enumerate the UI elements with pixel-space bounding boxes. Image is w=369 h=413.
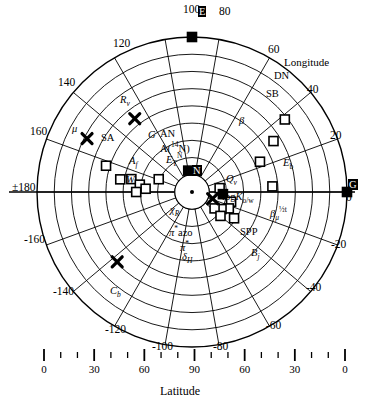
angle-label-m40: -40 [306,282,321,294]
point-label-Bj: Bj [251,248,260,261]
angle-label-m60: -60 [266,320,281,332]
bottom-axis-tick-6: 0 [338,364,352,375]
point-label-E: E [198,7,206,18]
point-label-mu: μ [72,124,77,135]
point-label-W: W [126,175,135,186]
marker-δH [216,211,225,220]
marker-DN [280,115,289,124]
point-label-Eb: Eb [283,158,293,171]
bottom-axis-tick-5: 30 [288,364,302,375]
angle-label-120: 120 [113,38,130,50]
angle-label-m120: -120 [105,324,126,336]
point-label-DN: DN [274,71,289,82]
latitude-axis-title: Latitude [160,385,200,397]
marker-SA [102,161,111,170]
point-label-beta-mu: βμ½t [270,206,287,221]
marker-SB [269,137,278,146]
polar-chart-figure: 100 80 120 60 140 40 160 20 ±180 0 -160 … [0,0,369,413]
marker-W [132,188,141,197]
angle-label-0: 0 [346,192,352,204]
point-label-Qv: Qv [226,174,237,187]
angle-label-20: 20 [330,130,342,142]
bottom-axis-tick-3: 90 [188,364,202,375]
marker-Bj [230,214,239,223]
rim-dot-top [189,34,195,40]
point-label-chiR: χR [170,205,179,218]
point-label-SA: SA [101,133,114,144]
angle-label-180: ±180 [12,182,36,194]
bottom-axis-tick-2: 60 [137,364,151,375]
angle-label-140: 140 [58,77,75,89]
angle-label-m140: -140 [53,286,74,298]
marker-Af [141,184,150,193]
point-label-pistar-azo: π*azo [169,225,193,238]
point-label-logKow: logKo/w [222,192,254,205]
point-label-deltaH: δH [182,252,192,265]
point-label-SB: SB [266,89,279,100]
point-label-beta: β [239,116,244,127]
point-label-G-cluster: G [148,130,156,141]
marker-Eb [268,182,277,191]
point-label-Cb: Cb [110,286,121,299]
marker-β [255,157,264,166]
point-label-SPP: SPP [240,227,258,238]
angle-label-80: 80 [219,6,231,18]
marker-Cb [112,257,122,267]
point-label-Af: Af [129,156,138,169]
marker-G [116,175,125,184]
angle-label-m20: -20 [331,239,346,251]
point-label-N: N [192,166,202,177]
point-label-Rv: Rv [120,95,130,108]
angle-label-m160: -160 [24,234,45,246]
bottom-axis-tick-0: 0 [37,364,51,375]
bottom-axis-tick-1: 30 [87,364,101,375]
longitude-axis-title: Longitude [284,57,329,68]
angle-label-m100: -100 [152,341,173,353]
angle-label-m80: -80 [213,341,228,353]
marker-ET N [154,175,163,184]
point-label-ETN: ETN [166,152,182,167]
point-label-AN: AN [160,129,175,140]
point-label-G-right: G [348,180,358,191]
angle-label-40: 40 [307,84,319,96]
marker-Rv [130,114,140,124]
angle-label-60: 60 [268,44,280,56]
angle-label-160: 160 [30,126,47,138]
bottom-axis [44,349,345,361]
bottom-axis-tick-4: 60 [238,364,252,375]
